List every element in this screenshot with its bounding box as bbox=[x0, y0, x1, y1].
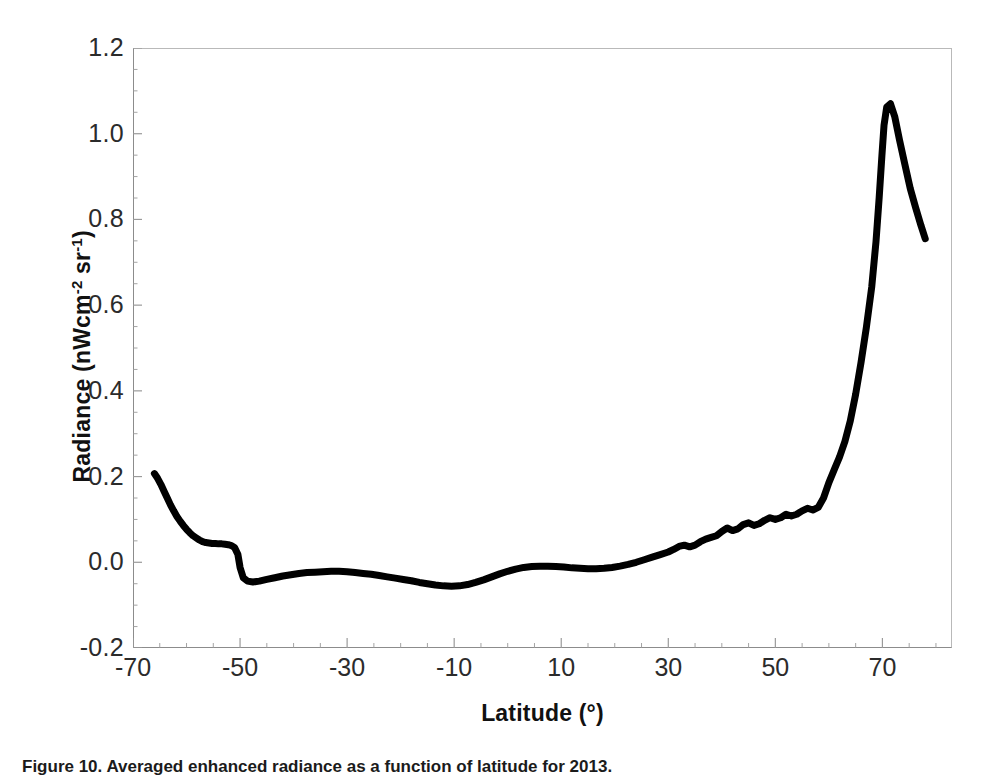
radiance-line-chart bbox=[133, 48, 952, 648]
x-tick-label: 50 bbox=[735, 655, 815, 680]
y-tick-label: 0.8 bbox=[64, 206, 124, 231]
x-axis-title: Latitude (°) bbox=[133, 700, 952, 727]
y-tick-label: 0.4 bbox=[64, 378, 124, 403]
x-tick-label: -30 bbox=[307, 655, 387, 680]
x-tick-label: -10 bbox=[414, 655, 494, 680]
x-tick-label: -50 bbox=[200, 655, 280, 680]
x-tick-label: 30 bbox=[628, 655, 708, 680]
x-tick-label: 10 bbox=[521, 655, 601, 680]
y-tick-label: 0.2 bbox=[64, 464, 124, 489]
data-series-line bbox=[154, 104, 925, 587]
y-tick-label: 1.2 bbox=[64, 35, 124, 60]
y-tick-label: 1.0 bbox=[64, 121, 124, 146]
x-tick-label: 70 bbox=[842, 655, 922, 680]
x-axis-tick-labels: -70-50-30-1010305070 bbox=[0, 655, 991, 689]
y-tick-label: 0.0 bbox=[64, 549, 124, 574]
y-tick-label: 0.6 bbox=[64, 292, 124, 317]
figure-caption: Figure 10. Averaged enhanced radiance as… bbox=[22, 757, 972, 777]
x-tick-label: -70 bbox=[93, 655, 173, 680]
